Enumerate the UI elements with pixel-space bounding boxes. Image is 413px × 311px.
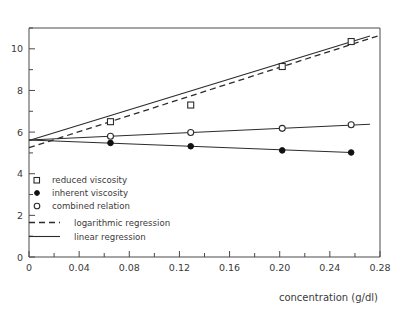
x-tick-label: 0.12	[169, 262, 190, 273]
x-tick-label: 0	[26, 262, 32, 273]
marker-filled-circle	[188, 143, 194, 149]
legend-label: linear regression	[74, 232, 146, 242]
y-tick-label: 6	[17, 127, 23, 138]
marker-open-square	[348, 39, 354, 45]
legend-marker-open-square	[34, 178, 40, 184]
marker-open-circle	[279, 125, 285, 131]
marker-open-square	[188, 102, 194, 108]
legend-label: inherent viscosity	[52, 188, 128, 198]
x-tick-label: 0.24	[319, 262, 340, 273]
marker-open-square	[279, 64, 285, 70]
regression-line	[29, 124, 370, 140]
marker-filled-circle	[348, 150, 354, 156]
x-axis-title: concentration (g/dl)	[279, 292, 378, 303]
legend-marker-open-circle	[34, 203, 40, 209]
y-tick-label: 10	[11, 43, 23, 54]
regression-lines	[29, 35, 380, 152]
regression-line	[29, 36, 370, 141]
x-axis-ticks	[29, 251, 380, 257]
regression-line	[29, 35, 380, 147]
x-tick-label: 0.20	[269, 262, 290, 273]
x-tick-label: 0.16	[219, 262, 240, 273]
y-axis-tick-labels: 0246810	[11, 43, 23, 262]
x-axis-tick-labels: 00.040.080.120.160.200.240.28	[26, 262, 391, 273]
legend-label: reduced viscosity	[52, 175, 127, 185]
x-tick-label: 0.28	[369, 262, 390, 273]
viscosity-concentration-chart: 00.040.080.120.160.200.240.28 0246810 co…	[0, 0, 413, 311]
marker-open-circle	[188, 130, 194, 136]
marker-open-circle	[348, 122, 354, 128]
x-tick-label: 0.08	[119, 262, 140, 273]
marker-filled-circle	[279, 148, 285, 154]
marker-filled-circle	[108, 140, 114, 146]
x-tick-label: 0.04	[69, 262, 90, 273]
y-tick-label: 0	[17, 252, 23, 263]
marker-open-square	[107, 119, 113, 125]
chart-legend: reduced viscosityinherent viscositycombi…	[29, 175, 170, 242]
chart-canvas: 00.040.080.120.160.200.240.28 0246810 co…	[0, 0, 413, 311]
legend-marker-filled-circle	[35, 191, 40, 196]
y-tick-label: 4	[17, 168, 23, 179]
y-tick-label: 2	[17, 210, 23, 221]
y-tick-label: 8	[17, 85, 23, 96]
marker-open-circle	[107, 133, 113, 139]
legend-label: logarithmic regression	[74, 218, 170, 228]
legend-label: combined relation	[52, 201, 130, 211]
